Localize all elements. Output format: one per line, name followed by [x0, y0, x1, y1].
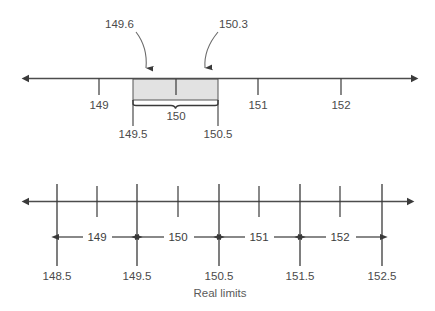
callout-label-149-6: 149.6: [105, 18, 134, 30]
bottom-label-150-5: 150.5: [205, 270, 234, 282]
interval-label-150: 150: [168, 231, 187, 243]
top-tick-label-149: 149: [89, 99, 108, 111]
interval-label-149: 149: [87, 231, 106, 243]
limit-label-150-5: 150.5: [204, 128, 233, 140]
top-tick-label-152: 152: [331, 99, 350, 111]
callout-arrow-150-3: [205, 32, 218, 68]
limit-label-149-5: 149.5: [119, 128, 148, 140]
measurement-limits-diagram: 149.6 150.3 149 151 152 150 149.5 150.5: [0, 0, 435, 311]
brace-label-150: 150: [166, 110, 185, 122]
interval-label-151: 151: [249, 231, 268, 243]
figure-caption: Real limits: [193, 287, 246, 299]
bottom-label-151-5: 151.5: [286, 270, 315, 282]
callout-label-150-3: 150.3: [219, 18, 248, 30]
interval-brace: [133, 100, 218, 109]
bottom-number-line-group: 149 150 151 152 148.5 149.5 150.5 151.5 …: [29, 184, 407, 299]
interval-label-152: 152: [330, 231, 349, 243]
top-number-line-group: 149.6 150.3 149 151 152 150 149.5 150.5: [29, 18, 411, 140]
bottom-label-148-5: 148.5: [43, 270, 72, 282]
top-tick-label-151: 151: [248, 99, 267, 111]
bottom-label-149-5: 149.5: [123, 270, 152, 282]
callout-arrow-149-6: [136, 32, 146, 68]
bottom-label-152-5: 152.5: [368, 270, 397, 282]
